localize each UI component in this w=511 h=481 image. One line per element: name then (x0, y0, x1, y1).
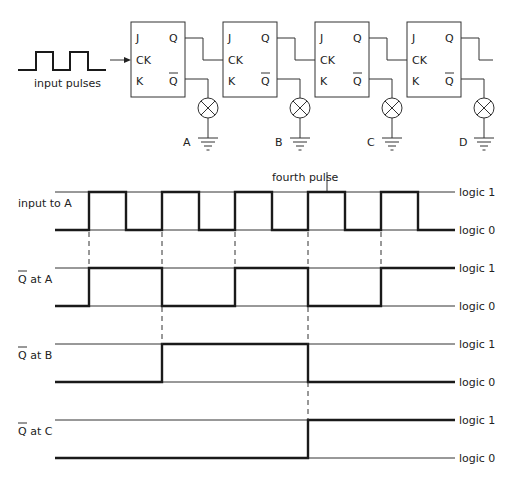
pin-k: K (136, 75, 144, 88)
waveform (55, 420, 455, 458)
lamp-icon (474, 98, 494, 118)
flipflop-b: JCKKQQB (223, 22, 315, 150)
counter-diagram: input pulses JCKKQQAJCKKQQBJCKKQQCJCKKQQ… (0, 0, 511, 481)
signal-1: input to Alogic 1logic 0 (18, 186, 495, 237)
lamp-icon (290, 98, 310, 118)
pin-q: Q (261, 32, 270, 45)
pin-qbar: Q (445, 75, 454, 88)
pin-q: Q (445, 32, 454, 45)
pin-qbar: Q (353, 75, 362, 88)
flipflop-a: JCKKQQA (131, 22, 223, 150)
pin-j: J (411, 32, 415, 45)
pin-k: K (228, 75, 236, 88)
flipflop-c: JCKKQQC (315, 22, 407, 150)
flipflop-d: JCKKQQD (407, 22, 494, 150)
pin-ck: CK (412, 54, 428, 67)
lamp-label-b: B (275, 136, 283, 149)
lamp-icon (382, 98, 402, 118)
signal-label: input to A (18, 197, 72, 210)
fourth-pulse-label: fourth pulse (272, 171, 339, 184)
pin-j: J (319, 32, 323, 45)
ground-icon (290, 138, 310, 150)
input-pulses-label: input pulses (34, 77, 101, 90)
pin-q: Q (169, 32, 178, 45)
logic-0-label: logic 0 (459, 452, 495, 465)
waveform (55, 268, 455, 306)
logic-0-label: logic 0 (459, 300, 495, 313)
lamp-icon (198, 98, 218, 118)
waveform (55, 192, 455, 230)
logic-1-label: logic 1 (459, 414, 495, 427)
signal-label: Q at C (18, 425, 53, 438)
signal-2: Q at Alogic 1logic 0 (18, 262, 495, 313)
signal-4: Q at Clogic 1logic 0 (18, 414, 495, 465)
pin-j: J (135, 32, 139, 45)
ground-icon (382, 138, 402, 150)
signal-label: Q at B (18, 349, 52, 362)
arrow-icon (124, 57, 131, 63)
signal-3: Q at Blogic 1logic 0 (18, 338, 495, 389)
pin-ck: CK (228, 54, 244, 67)
waveform (55, 344, 455, 382)
pin-k: K (320, 75, 328, 88)
logic-1-label: logic 1 (459, 186, 495, 199)
pin-j: J (227, 32, 231, 45)
pin-ck: CK (136, 54, 152, 67)
pin-k: K (412, 75, 420, 88)
logic-0-label: logic 0 (459, 224, 495, 237)
ground-icon (198, 138, 218, 150)
fourth-pulse-annotation: fourth pulse (272, 171, 339, 191)
pin-q: Q (353, 32, 362, 45)
input-pulses-symbol: input pulses (18, 52, 131, 90)
lamp-label-c: C (367, 136, 375, 149)
logic-1-label: logic 1 (459, 262, 495, 275)
pin-qbar: Q (169, 75, 178, 88)
lamp-label-a: A (183, 136, 191, 149)
logic-0-label: logic 0 (459, 376, 495, 389)
signal-label: Q at A (18, 273, 53, 286)
pin-ck: CK (320, 54, 336, 67)
pin-qbar: Q (261, 75, 270, 88)
lamp-label-d: D (459, 136, 467, 149)
ground-icon (474, 138, 494, 150)
logic-1-label: logic 1 (459, 338, 495, 351)
